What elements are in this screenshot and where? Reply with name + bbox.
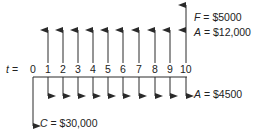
period-labels: 0 1 2 3 4 5 6 7 8 9 10	[30, 63, 192, 75]
cash-flow-diagram: t= 0 1 2 3 4 5 6 7 8 9 10	[0, 0, 260, 139]
period-label: 7	[136, 63, 142, 75]
period-label: 6	[120, 63, 126, 75]
future-value-label: F = $5000	[194, 11, 242, 23]
axis-label: t=	[6, 63, 18, 75]
period-label: 10	[180, 63, 192, 75]
income-arrows	[48, 30, 186, 63]
period-label: 3	[75, 63, 81, 75]
period-label: 4	[90, 63, 96, 75]
cost-arrows	[48, 77, 186, 96]
initial-cost-label: C = $30,000	[40, 117, 98, 129]
period-label: 0	[30, 63, 36, 75]
period-label: 2	[60, 63, 66, 75]
annual-cost-label: A = $4500	[193, 88, 242, 100]
period-label: 1	[45, 63, 51, 75]
period-label: 9	[167, 63, 173, 75]
period-label: 5	[105, 63, 111, 75]
period-label: 8	[152, 63, 158, 75]
annual-income-label: A = $12,000	[193, 26, 251, 38]
